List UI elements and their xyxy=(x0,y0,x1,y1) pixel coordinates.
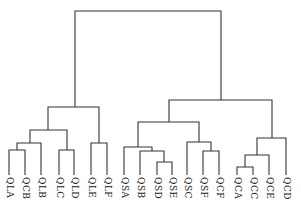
dendrogram-link xyxy=(245,155,269,175)
leaf-label: QLA xyxy=(5,177,14,198)
leaf-label: QLD xyxy=(70,177,79,199)
dendrogram-link xyxy=(91,143,107,175)
leaf-label: QCF xyxy=(215,177,224,199)
dendrogram-link xyxy=(75,11,221,107)
leaf-label: QSF xyxy=(199,177,208,198)
dendrogram-link xyxy=(138,122,199,147)
leaf-label: QSD xyxy=(153,177,162,199)
leaf-label: QLE xyxy=(87,177,96,198)
leaf-label: QLB xyxy=(37,177,46,198)
dendrogram-link xyxy=(203,151,219,175)
leaf-label: QCB xyxy=(21,177,30,199)
leaf-label: QLC xyxy=(55,177,64,199)
leaf-label: QCA xyxy=(233,177,242,199)
dendrogram-link xyxy=(30,130,67,150)
dendrogram-link xyxy=(17,143,41,175)
leaf-label: QLF xyxy=(103,177,112,198)
leaf-label: QCC xyxy=(249,177,258,200)
leaf-label: QSE xyxy=(168,177,177,199)
dendrogram-link xyxy=(48,107,99,143)
dendrogram-link xyxy=(9,150,25,175)
leaf-label: QCD xyxy=(282,177,291,200)
dendrogram-link xyxy=(59,150,74,175)
dendrogram-link xyxy=(187,142,211,175)
dendrogram-link xyxy=(237,167,253,175)
leaf-label: QCE xyxy=(265,177,274,199)
leaf-label: QSC xyxy=(183,177,192,199)
dendrogram-link xyxy=(169,100,272,138)
dendrogram-link xyxy=(140,151,164,175)
dendrogram-link xyxy=(157,162,172,175)
leaf-label: QSA xyxy=(120,177,129,199)
dendrogram-link xyxy=(257,138,286,175)
dendrogram-links xyxy=(9,11,286,175)
leaf-label: QSB xyxy=(136,177,145,199)
